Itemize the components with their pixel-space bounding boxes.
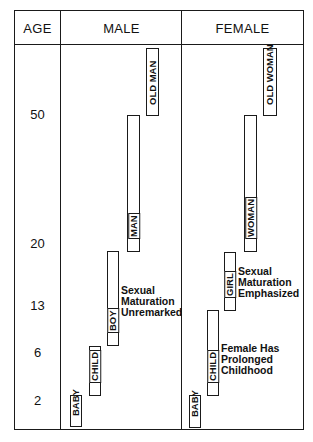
male-stage-bar-child: CHILD xyxy=(89,346,101,396)
sex-column-divider xyxy=(181,10,182,430)
stage-label: BABY xyxy=(190,390,200,417)
female-stage-bar-old-woman: OLD WOMAN xyxy=(263,48,277,116)
male-maturation-note: SexualMaturationUnremarked xyxy=(121,285,182,318)
male-stage-bar-boy: BOY xyxy=(107,251,119,346)
male-stage-bar-baby: BABY xyxy=(70,395,82,427)
note-line: Childhood xyxy=(221,365,279,376)
stage-label: CHILD xyxy=(207,349,219,382)
age-label: 13 xyxy=(14,298,61,313)
header-female: FEMALE xyxy=(182,11,303,45)
female-stage-bar-baby: BABY xyxy=(189,395,201,428)
note-line: Emphasized xyxy=(238,288,299,299)
male-stage-bar-man: MAN xyxy=(127,115,140,252)
female-stage-bar-girl: GIRL xyxy=(224,252,236,311)
stage-label: OLD WOMAN xyxy=(265,44,275,105)
stage-label: BABY xyxy=(71,389,81,416)
age-label: 2 xyxy=(14,393,61,408)
stage-label: WOMAN xyxy=(245,197,257,239)
age-label: 50 xyxy=(14,107,61,122)
stage-label: GIRL xyxy=(224,271,236,298)
age-column-divider xyxy=(60,10,61,430)
header-male: MALE xyxy=(61,11,182,45)
age-label: 6 xyxy=(14,345,61,360)
stage-label: BOY xyxy=(107,308,119,333)
female-childhood-note: Female HasProlongedChildhood xyxy=(221,343,279,376)
age-label: 20 xyxy=(14,236,61,251)
female-maturation-note: SexualMaturationEmphasized xyxy=(238,266,299,299)
stage-label: CHILD xyxy=(89,349,101,382)
male-stage-bar-old-man: OLD MAN xyxy=(146,48,159,116)
header-age: AGE xyxy=(14,11,61,45)
stage-label: OLD MAN xyxy=(148,60,158,104)
female-stage-bar-woman: WOMAN xyxy=(244,115,257,252)
note-line: Unremarked xyxy=(121,307,182,318)
stage-label: MAN xyxy=(128,213,140,239)
female-stage-bar-child: CHILD xyxy=(207,310,219,396)
